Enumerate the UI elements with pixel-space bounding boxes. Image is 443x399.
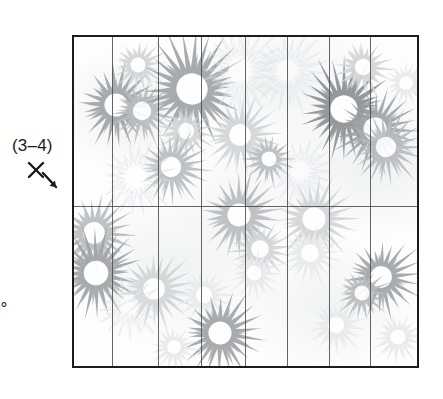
grid-line-vertical-5 <box>329 37 330 366</box>
grid-line-vertical-1 <box>158 37 159 366</box>
grid-line-vertical-4 <box>287 37 288 366</box>
figure-panel: (3–4) 0° ) <box>0 0 443 399</box>
plot-inner <box>74 37 417 366</box>
plot-frame <box>72 35 419 368</box>
flower-marker <box>382 59 419 107</box>
grid-line-vertical-6 <box>370 37 371 366</box>
x-axis-down-right-arrow-icon <box>26 160 66 194</box>
grid-line-vertical-2 <box>201 37 202 366</box>
grid-line-vertical-3 <box>245 37 246 366</box>
grid-line-horizontal-0 <box>74 206 417 207</box>
range-label: (3–4) <box>12 137 53 154</box>
degree-label: 0° <box>0 300 7 317</box>
grid-line-vertical-0 <box>112 37 113 366</box>
